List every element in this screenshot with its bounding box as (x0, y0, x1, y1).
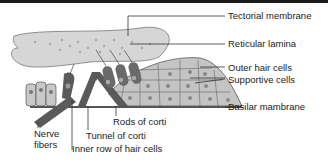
label-supportive-cells: Supportive cells (228, 74, 295, 85)
label-rods-of-corti: Rods of corti (113, 116, 166, 127)
label-nerve-fibers-line2: fibers (34, 139, 57, 150)
tectorial-membrane-shape (12, 27, 170, 74)
label-inner-row-hair-cells: Inner row of hair cells (72, 143, 162, 154)
label-basilar-membrane: Basilar mambrane (228, 101, 305, 112)
inner-supporting-cells (26, 82, 56, 106)
label-reticular-lamina: Reticular lamina (228, 38, 296, 49)
label-nerve-fibers-line1: Nerve (34, 128, 59, 139)
label-tunnel-of-corti: Tunnel of corti (86, 130, 146, 141)
label-outer-hair-cells: Outer hair cells (228, 62, 292, 73)
label-tectorial-membrane: Tectorial membrane (228, 10, 311, 21)
inner-hair-cell-shape (62, 72, 74, 100)
